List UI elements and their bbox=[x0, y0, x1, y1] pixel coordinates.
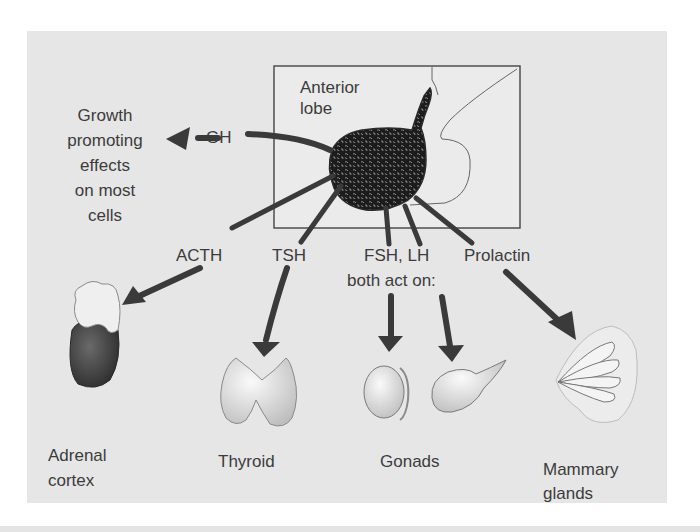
lh-arrowhead bbox=[438, 345, 464, 362]
adrenal-label-line1: Adrenal bbox=[48, 446, 107, 466]
gh-effect-line1: Growth bbox=[55, 106, 155, 126]
fsh-arrowhead bbox=[378, 336, 403, 352]
acth-label: ACTH bbox=[176, 246, 222, 266]
fsh-lh-both-act-label: both act on: bbox=[347, 271, 436, 291]
anterior-lobe-label-line1: Anterior bbox=[300, 78, 360, 98]
gh-label: GH bbox=[206, 128, 232, 148]
gh-effect-line2: promoting bbox=[55, 131, 155, 151]
tsh-arrow-shaft bbox=[266, 268, 287, 340]
thyroid-label: Thyroid bbox=[218, 452, 275, 472]
ovary-shape bbox=[432, 360, 506, 412]
mammary-gland-illustration bbox=[556, 326, 637, 422]
testis-shape bbox=[364, 366, 404, 418]
anterior-lobe-label-line2: lobe bbox=[300, 99, 332, 119]
tsh-label: TSH bbox=[272, 246, 306, 266]
gh-arrowhead bbox=[166, 127, 190, 150]
fsh-lh-label: FSH, LH bbox=[364, 246, 429, 266]
gonads-illustration bbox=[364, 360, 506, 420]
prolactin-arrow-shaft bbox=[506, 272, 560, 322]
tsh-arrowhead bbox=[252, 342, 280, 357]
prolactin-label: Prolactin bbox=[464, 246, 530, 266]
gh-effect-line4: on most bbox=[55, 181, 155, 201]
thyroid-illustration bbox=[221, 358, 297, 426]
mammary-label-line2: glands bbox=[543, 484, 593, 504]
gh-effect-line3: effects bbox=[55, 156, 155, 176]
adrenal-label-line2: cortex bbox=[48, 471, 94, 491]
gh-effect-line5: cells bbox=[55, 206, 155, 226]
gonads-label: Gonads bbox=[380, 452, 440, 472]
lh-arrow-shaft bbox=[442, 297, 450, 346]
adrenal-cortex-illustration bbox=[70, 281, 120, 387]
acth-arrow-shaft bbox=[135, 268, 200, 298]
mammary-label-line1: Mammary bbox=[543, 460, 619, 480]
